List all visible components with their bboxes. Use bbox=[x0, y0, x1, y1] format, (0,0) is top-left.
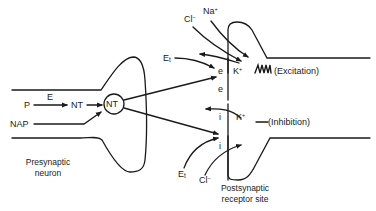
k-excitatory-sup: + bbox=[239, 66, 242, 72]
cl-excitatory-label: Cl− bbox=[184, 14, 196, 24]
cl-inhibitory-arrow bbox=[205, 145, 241, 175]
cl-inhibitory-text: Cl bbox=[199, 175, 208, 185]
k-inhibitory-label: K+ bbox=[236, 112, 245, 122]
k-excitatory-label: K+ bbox=[233, 66, 242, 76]
excitation-zigzag bbox=[255, 65, 271, 73]
synapse-diagram bbox=[0, 0, 376, 211]
na-excitatory-sup: + bbox=[215, 6, 218, 12]
cl-inhibitory-sup: − bbox=[208, 175, 211, 181]
cl-excitatory-arrow bbox=[193, 27, 241, 61]
na-excitatory-text: Na bbox=[203, 6, 215, 16]
et-inhibitory-sub: t bbox=[184, 172, 186, 179]
vesicle-to-inhibitory-arrow bbox=[124, 108, 218, 134]
nt-label: NT bbox=[71, 100, 83, 110]
presynaptic-caption-line2: neuron bbox=[20, 168, 76, 179]
i2-label: i bbox=[219, 141, 221, 151]
cl-inhibitory-label: Cl− bbox=[199, 175, 211, 185]
postsynaptic-caption-line2: receptor site bbox=[210, 194, 280, 205]
et-excitatory-label: Et bbox=[163, 53, 171, 63]
cl-excitatory-sup: − bbox=[193, 14, 196, 20]
presynaptic-neuron-outline bbox=[12, 57, 147, 172]
cl-excitatory-text: Cl bbox=[184, 14, 193, 24]
i1-label: i bbox=[219, 112, 221, 122]
excitation-label: (Excitation) bbox=[274, 66, 319, 76]
et-excitatory-sub: t bbox=[169, 56, 171, 63]
nap-label: NAP bbox=[10, 119, 29, 129]
presynaptic-caption-line1: Presynaptic bbox=[20, 157, 76, 168]
postsynaptic-caption-line1: Postsynaptic bbox=[210, 183, 280, 194]
postsynaptic-membrane-lower bbox=[228, 136, 370, 180]
p-label: P bbox=[24, 100, 30, 110]
e2-label: e bbox=[218, 84, 223, 94]
nap-arrow bbox=[34, 112, 101, 124]
inhibition-label: (Inhibition) bbox=[268, 117, 310, 127]
vesicle-to-excitatory-arrow bbox=[124, 77, 216, 100]
presynaptic-caption: Presynaptic neuron bbox=[20, 157, 76, 179]
et-excitatory-arrow bbox=[175, 58, 214, 68]
k-excitatory-arrow bbox=[200, 54, 239, 63]
na-excitatory-label: Na+ bbox=[203, 6, 218, 16]
na-excitatory-arrow bbox=[211, 21, 248, 57]
postsynaptic-caption: Postsynaptic receptor site bbox=[210, 183, 280, 205]
e-label: E bbox=[47, 92, 53, 102]
e1-label: e bbox=[218, 66, 223, 76]
nt-vesicle-label: NT bbox=[106, 99, 118, 109]
k-inhibitory-sup: + bbox=[242, 112, 245, 118]
et-inhibitory-label: Et bbox=[178, 169, 186, 179]
